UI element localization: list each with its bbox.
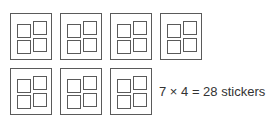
- sticker-square: [33, 93, 47, 107]
- sticker-square: [83, 76, 97, 90]
- sticker-sheet: [10, 13, 52, 60]
- sticker-square: [67, 24, 81, 38]
- sticker-square: [83, 21, 97, 35]
- sticker-square: [133, 38, 147, 52]
- sticker-square: [133, 21, 147, 35]
- sticker-square: [33, 21, 47, 35]
- sticker-square: [67, 40, 81, 54]
- equation-caption: 7 × 4 = 28 stickers: [159, 84, 265, 99]
- sticker-square: [117, 79, 131, 93]
- sticker-sheet: [160, 13, 202, 60]
- sticker-square: [17, 24, 31, 38]
- sticker-square: [33, 38, 47, 52]
- sticker-sheet: [60, 13, 102, 60]
- sticker-square: [67, 79, 81, 93]
- sticker-square: [33, 76, 47, 90]
- sticker-square: [133, 76, 147, 90]
- sticker-sheet: [110, 13, 152, 60]
- sticker-sheet: [60, 68, 102, 115]
- sticker-square: [83, 38, 97, 52]
- sticker-square: [17, 40, 31, 54]
- sticker-square: [117, 95, 131, 109]
- sticker-sheet: [110, 68, 152, 115]
- sticker-square: [117, 24, 131, 38]
- sticker-sheet: [10, 68, 52, 115]
- sticker-square: [167, 40, 181, 54]
- sticker-square: [167, 24, 181, 38]
- sticker-square: [133, 93, 147, 107]
- sticker-square: [183, 21, 197, 35]
- sticker-square: [83, 93, 97, 107]
- sticker-square: [17, 79, 31, 93]
- sticker-square: [183, 38, 197, 52]
- sticker-square: [67, 95, 81, 109]
- sticker-square: [17, 95, 31, 109]
- sticker-square: [117, 40, 131, 54]
